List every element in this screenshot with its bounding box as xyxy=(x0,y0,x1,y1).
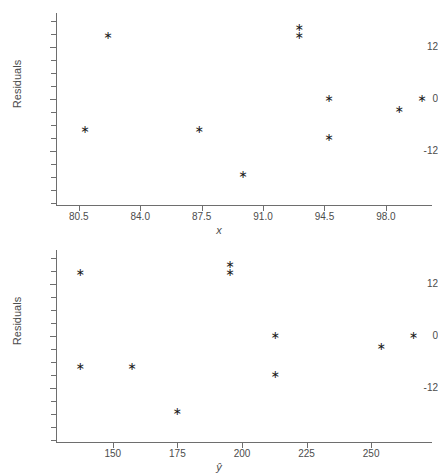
x-tick-label: 91.0 xyxy=(241,211,285,222)
y-tick-minor xyxy=(51,203,56,204)
y-tick-minor xyxy=(51,414,56,415)
y-tick-label: 12 xyxy=(396,279,438,289)
y-tick-minor xyxy=(51,375,56,376)
plot-area-top xyxy=(56,14,428,205)
x-tick-label: 175 xyxy=(155,448,199,459)
y-tick-label: -12 xyxy=(396,383,438,393)
plot-area-bottom xyxy=(56,251,428,442)
y-tick-minor xyxy=(51,271,56,272)
y-tick-label: 0 xyxy=(396,94,438,104)
y-tick-major xyxy=(50,284,56,285)
residuals-vs-x-chart: Residuals x 120-1280.584.087.591.094.598… xyxy=(0,0,438,238)
y-tick-minor xyxy=(51,427,56,428)
x-tick-label: 150 xyxy=(91,448,135,459)
y-tick-minor xyxy=(51,258,56,259)
x-axis-line-top xyxy=(56,205,432,206)
y-tick-major xyxy=(50,99,56,100)
y-tick-minor xyxy=(51,125,56,126)
data-point xyxy=(127,363,134,370)
x-axis-title-bottom: ŷ xyxy=(0,461,438,473)
data-point xyxy=(76,363,83,370)
y-tick-minor xyxy=(51,112,56,113)
x-tick-label: 80.5 xyxy=(57,211,101,222)
x-tick-label: 250 xyxy=(349,448,393,459)
y-tick-major xyxy=(50,388,56,389)
data-point xyxy=(226,269,233,276)
y-tick-major xyxy=(50,47,56,48)
data-point xyxy=(271,371,278,378)
y-tick-minor xyxy=(51,21,56,22)
y-tick-minor xyxy=(51,164,56,165)
y-tick-minor xyxy=(51,34,56,35)
y-tick-minor xyxy=(51,323,56,324)
data-point xyxy=(324,134,331,141)
y-tick-minor xyxy=(51,362,56,363)
x-axis-title-top: x xyxy=(0,224,438,236)
x-tick-label: 94.5 xyxy=(302,211,346,222)
y-tick-minor xyxy=(51,177,56,178)
y-tick-label: 12 xyxy=(396,42,438,52)
y-tick-minor xyxy=(51,138,56,139)
x-tick-label: 225 xyxy=(285,448,329,459)
data-point xyxy=(377,343,384,350)
residuals-vs-yhat-chart: Residuals ŷ 120-12150175200225250 xyxy=(0,237,438,475)
y-axis-title-top: Residuals xyxy=(11,29,23,139)
data-point xyxy=(239,171,246,178)
x-tick-label: 200 xyxy=(220,448,264,459)
data-point xyxy=(81,126,88,133)
data-point xyxy=(76,269,83,276)
data-point xyxy=(173,408,180,415)
data-point xyxy=(395,106,402,113)
y-tick-label: 0 xyxy=(396,331,438,341)
y-tick-major xyxy=(50,336,56,337)
y-tick-minor xyxy=(51,86,56,87)
y-tick-minor xyxy=(51,190,56,191)
y-tick-label: -12 xyxy=(396,146,438,156)
data-point xyxy=(271,332,278,339)
x-tick-label: 84.0 xyxy=(118,211,162,222)
y-tick-major xyxy=(50,151,56,152)
y-tick-minor xyxy=(51,297,56,298)
y-tick-minor xyxy=(51,401,56,402)
y-tick-minor xyxy=(51,440,56,441)
y-tick-minor xyxy=(51,73,56,74)
y-tick-minor xyxy=(51,349,56,350)
y-tick-minor xyxy=(51,310,56,311)
x-tick-label: 87.5 xyxy=(180,211,224,222)
data-point xyxy=(195,126,202,133)
data-point xyxy=(295,32,302,39)
y-axis-title-bottom: Residuals xyxy=(11,266,23,376)
y-tick-minor xyxy=(51,60,56,61)
data-point xyxy=(103,32,110,39)
data-point xyxy=(324,95,331,102)
x-tick-label: 98.0 xyxy=(364,211,408,222)
